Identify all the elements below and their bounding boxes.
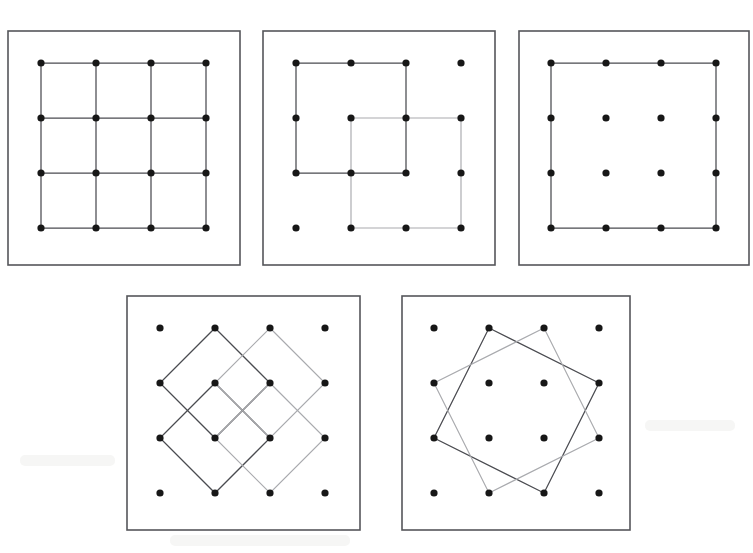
lattice-dot — [402, 114, 409, 121]
lattice-dot — [37, 114, 44, 121]
lattice-dot — [92, 224, 99, 231]
lattice-dot — [457, 59, 464, 66]
lattice-dot — [602, 59, 609, 66]
lattice-dot — [347, 169, 354, 176]
lattice-dot — [485, 489, 492, 496]
lattice-dot — [430, 324, 437, 331]
lattice-dot — [430, 379, 437, 386]
lattice-dot — [540, 324, 547, 331]
lattice-dot — [202, 224, 209, 231]
lattice-dot — [156, 489, 163, 496]
lattice-dot — [147, 114, 154, 121]
lattice-dot — [402, 224, 409, 231]
panel — [519, 31, 749, 265]
lattice-dot — [602, 169, 609, 176]
lattice-dot — [547, 169, 554, 176]
panel — [127, 296, 360, 530]
lattice-dot — [540, 434, 547, 441]
lattice-dot — [402, 59, 409, 66]
lattice-dot — [547, 59, 554, 66]
lattice-dot — [712, 169, 719, 176]
lattice-dot — [202, 169, 209, 176]
lattice-dot — [457, 114, 464, 121]
lattice-dot — [147, 224, 154, 231]
lattice-dot — [147, 169, 154, 176]
lattice-dot — [595, 379, 602, 386]
lattice-dot — [292, 114, 299, 121]
lattice-dot — [430, 434, 437, 441]
lattice-dot — [92, 169, 99, 176]
lattice-dot — [37, 224, 44, 231]
lattice-dot — [92, 114, 99, 121]
lattice-dot — [602, 224, 609, 231]
lattice-dot — [202, 59, 209, 66]
lattice-dot — [595, 324, 602, 331]
lattice-dot — [266, 379, 273, 386]
lattice-dot — [292, 224, 299, 231]
lattice-dot — [712, 114, 719, 121]
lattice-dot — [547, 114, 554, 121]
lattice-dot — [211, 434, 218, 441]
lattice-dot — [457, 169, 464, 176]
lattice-dot — [540, 489, 547, 496]
lattice-dot — [347, 59, 354, 66]
panel — [402, 296, 630, 530]
lattice-dot — [321, 434, 328, 441]
lattice-dot — [156, 324, 163, 331]
lattice-dot — [266, 324, 273, 331]
lattice-dot — [595, 434, 602, 441]
lattice-dot — [202, 114, 209, 121]
lattice-dot — [430, 489, 437, 496]
lattice-dot — [37, 169, 44, 176]
panel — [8, 31, 240, 265]
lattice-dot — [485, 434, 492, 441]
lattice-dot — [595, 489, 602, 496]
panel — [263, 31, 495, 265]
lattice-dot — [457, 224, 464, 231]
lattice-dot — [92, 59, 99, 66]
lattice-dot — [402, 169, 409, 176]
lattice-dot — [485, 324, 492, 331]
lattice-dot — [147, 59, 154, 66]
lattice-dot — [266, 434, 273, 441]
lattice-dot — [321, 379, 328, 386]
lattice-dot — [347, 114, 354, 121]
lattice-dot — [657, 114, 664, 121]
panel-group — [8, 31, 749, 530]
lattice-dot — [547, 224, 554, 231]
lattice-dot — [657, 59, 664, 66]
lattice-dot — [211, 489, 218, 496]
lattice-dot — [321, 324, 328, 331]
lattice-dot — [292, 59, 299, 66]
lattice-dot — [156, 434, 163, 441]
lattice-dot — [211, 379, 218, 386]
lattice-dot — [712, 59, 719, 66]
squares-on-lattice-figure — [0, 0, 753, 553]
lattice-dot — [540, 379, 547, 386]
lattice-dot — [266, 489, 273, 496]
lattice-dot — [485, 379, 492, 386]
lattice-dot — [292, 169, 299, 176]
lattice-dot — [657, 169, 664, 176]
lattice-dot — [211, 324, 218, 331]
lattice-dot — [657, 224, 664, 231]
lattice-dot — [602, 114, 609, 121]
lattice-dot — [321, 489, 328, 496]
lattice-dot — [712, 224, 719, 231]
lattice-dot — [347, 224, 354, 231]
lattice-dot — [156, 379, 163, 386]
lattice-dot — [37, 59, 44, 66]
